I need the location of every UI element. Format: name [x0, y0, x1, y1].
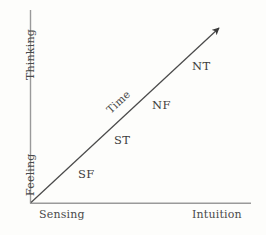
time-arrow-line	[31, 28, 219, 203]
x-axis-right-label: Intuition	[192, 208, 242, 221]
y-axis-lower-label: Feeling	[24, 153, 37, 196]
quadrant-label-nt: NT	[192, 59, 211, 73]
axes-and-arrow-svg	[0, 0, 266, 235]
y-axis-upper-label: Thinking	[24, 29, 37, 80]
x-axis-left-label: Sensing	[39, 208, 85, 221]
quadrant-label-st: ST	[114, 133, 130, 147]
typology-diagram: Thinking Feeling Sensing Intuition SF ST…	[0, 0, 266, 235]
quadrant-label-nf: NF	[152, 98, 171, 112]
quadrant-label-sf: SF	[78, 167, 95, 181]
